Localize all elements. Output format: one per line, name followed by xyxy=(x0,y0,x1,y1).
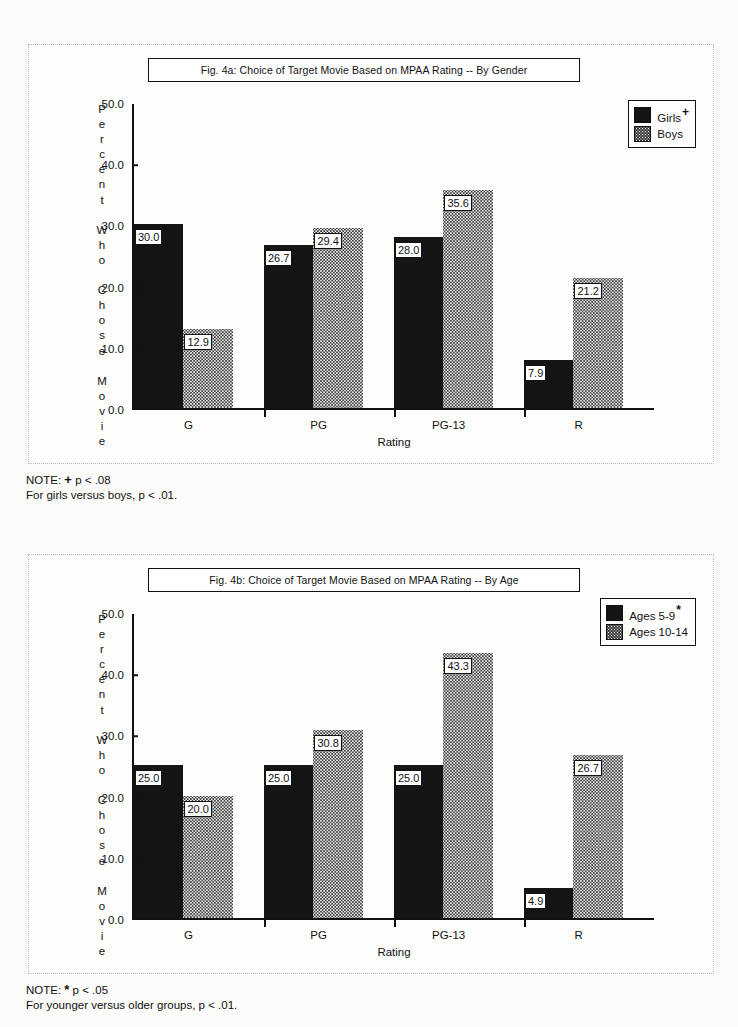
y-axis-tick-label: 20.0 xyxy=(102,792,124,804)
bar-value-label: 21.2 xyxy=(574,283,601,299)
y-axis-title-letter: s xyxy=(94,328,110,343)
figure-4b-note-line2: For younger versus older groups, p < .01… xyxy=(26,998,237,1013)
bar-group: 28.035.6 xyxy=(394,104,524,408)
y-axis-title-letter: h xyxy=(94,298,110,313)
note-text: p < .08 xyxy=(75,474,111,486)
y-axis-tick-label: 30.0 xyxy=(102,220,124,232)
bar: 28.0 xyxy=(394,237,443,408)
figure-4a-bars: 30.012.926.729.428.035.67.921.2 xyxy=(134,104,654,408)
y-axis-title-letter: M xyxy=(94,374,110,389)
y-axis-tick-mark xyxy=(132,736,138,738)
y-axis-title-letter: r xyxy=(94,132,110,147)
x-axis-tick-mark xyxy=(264,920,266,927)
y-axis-title-letter: n xyxy=(94,687,110,702)
bar-group: 25.043.3 xyxy=(394,614,524,918)
figure-4a-x-axis-title: Rating xyxy=(134,436,654,448)
figure-4a-plot-area: 30.012.926.729.428.035.67.921.2 GPGPG-13… xyxy=(132,104,654,410)
y-axis-title-letter: s xyxy=(94,838,110,853)
figure-4b: Fig. 4b: Choice of Target Movie Based on… xyxy=(28,554,714,974)
bar-value-label: 43.3 xyxy=(444,658,471,674)
x-axis-tick-label: G xyxy=(184,929,193,941)
y-axis-title-letter: t xyxy=(94,193,110,208)
bar-value-label: 30.0 xyxy=(135,229,162,245)
y-axis-title-letter: h xyxy=(94,238,110,253)
y-axis-title-letter: o xyxy=(94,313,110,328)
x-axis-tick-mark xyxy=(394,920,396,927)
bar: 29.4 xyxy=(313,228,362,408)
y-axis-tick-mark xyxy=(132,226,138,228)
legend-label-girls: Girls xyxy=(657,111,681,123)
y-axis-title-letter: r xyxy=(94,642,110,657)
bar-value-label: 25.0 xyxy=(395,770,422,786)
y-axis-tick-label: 50.0 xyxy=(102,98,124,110)
y-axis-title-letter: o xyxy=(94,899,110,914)
figure-4b-bars: 25.020.025.030.825.043.34.926.7 xyxy=(134,614,654,918)
bar-value-label: 35.6 xyxy=(444,195,471,211)
bar: 35.6 xyxy=(443,190,492,408)
figure-4a-y-axis-title: Percent Who Chose Movie xyxy=(94,102,110,449)
bar-value-label: 26.7 xyxy=(574,760,601,776)
bar-value-label: 28.0 xyxy=(395,242,422,258)
y-axis-title-letter: i xyxy=(94,419,110,434)
y-axis-tick-label: 40.0 xyxy=(102,159,124,171)
x-axis-tick-label: PG-13 xyxy=(432,929,465,941)
bar-value-label: 20.0 xyxy=(184,801,211,817)
y-axis-title-letter: o xyxy=(94,253,110,268)
figure-4b-note: NOTE: * p < .05 For younger versus older… xyxy=(26,982,237,1013)
bar-group: 7.921.2 xyxy=(524,104,654,408)
bar: 30.8 xyxy=(313,730,362,918)
figure-4b-note-line1: NOTE: * p < .05 xyxy=(26,982,237,998)
y-axis-title-letter: e xyxy=(94,944,110,959)
y-axis-tick-label: 10.0 xyxy=(102,343,124,355)
bar-value-label: 26.7 xyxy=(265,250,292,266)
y-axis-title-letter xyxy=(94,869,110,884)
y-axis-title-letter: e xyxy=(94,434,110,449)
figure-4a: Fig. 4a: Choice of Target Movie Based on… xyxy=(28,44,714,464)
y-axis-tick-mark xyxy=(132,287,138,289)
x-axis-tick-mark xyxy=(524,920,526,927)
bar: 26.7 xyxy=(264,245,313,408)
figure-4a-title-box: Fig. 4a: Choice of Target Movie Based on… xyxy=(148,58,580,82)
y-axis-title-letter: o xyxy=(94,389,110,404)
note-symbol: * xyxy=(64,982,69,997)
bar: 21.2 xyxy=(573,278,622,408)
bar-group: 26.729.4 xyxy=(264,104,394,408)
figure-4a-x-ticks: GPGPG-13R xyxy=(134,410,654,434)
x-axis-tick-mark xyxy=(394,410,396,417)
bar-value-label: 25.0 xyxy=(265,770,292,786)
y-axis-tick-mark xyxy=(132,797,138,799)
y-axis-tick-mark xyxy=(132,348,138,350)
bar-group: 25.020.0 xyxy=(134,614,264,918)
y-axis-tick-label: 40.0 xyxy=(102,669,124,681)
bar-value-label: 7.9 xyxy=(525,365,546,381)
figure-4b-x-ticks: GPGPG-13R xyxy=(134,920,654,944)
y-axis-tick-label: 10.0 xyxy=(102,853,124,865)
figure-4b-plot-area: 25.020.025.030.825.043.34.926.7 GPGPG-13… xyxy=(132,614,654,920)
bar: 20.0 xyxy=(183,796,232,918)
legend-label-boys: Boys xyxy=(657,128,683,140)
x-axis-tick-label: PG xyxy=(310,929,327,941)
bar-value-label: 30.8 xyxy=(314,735,341,751)
bar: 25.0 xyxy=(134,765,183,918)
note-text: p < .05 xyxy=(73,984,109,996)
y-axis-tick-mark xyxy=(132,858,138,860)
x-axis-tick-label: R xyxy=(574,419,582,431)
bar: 43.3 xyxy=(443,653,492,918)
figure-4a-note-line2: For girls versus boys, p < .01. xyxy=(26,488,177,503)
bar-value-label: 12.9 xyxy=(184,334,211,350)
bar: 26.7 xyxy=(573,755,622,918)
note-symbol: + xyxy=(64,472,72,487)
y-axis-title-letter: i xyxy=(94,929,110,944)
figure-4b-title: Fig. 4b: Choice of Target Movie Based on… xyxy=(209,574,518,586)
scanned-page: Fig. 4a: Choice of Target Movie Based on… xyxy=(0,0,738,1027)
bar: 4.9 xyxy=(524,888,573,918)
y-axis-tick-mark xyxy=(132,674,138,676)
y-axis-title-letter: h xyxy=(94,808,110,823)
figure-4a-note: NOTE: + p < .08 For girls versus boys, p… xyxy=(26,472,177,503)
bar: 25.0 xyxy=(264,765,313,918)
y-axis-title-letter: o xyxy=(94,823,110,838)
bar-value-label: 29.4 xyxy=(314,233,341,249)
x-axis-tick-label: PG xyxy=(310,419,327,431)
bar: 25.0 xyxy=(394,765,443,918)
y-axis-title-letter: e xyxy=(94,627,110,642)
